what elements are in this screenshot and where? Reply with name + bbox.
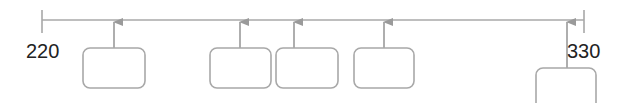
timeline-diagram: [0, 0, 623, 103]
start-label: 220: [26, 41, 59, 61]
event-box[interactable]: [83, 48, 145, 88]
end-label: 330: [567, 41, 600, 61]
event-box[interactable]: [354, 48, 414, 88]
event-4: [354, 22, 414, 88]
event-5: [536, 22, 596, 103]
event-box[interactable]: [276, 48, 338, 88]
event-2: [210, 22, 271, 88]
event-1: [83, 22, 145, 88]
event-box[interactable]: [210, 48, 271, 88]
event-3: [276, 22, 338, 88]
event-box[interactable]: [536, 68, 596, 103]
